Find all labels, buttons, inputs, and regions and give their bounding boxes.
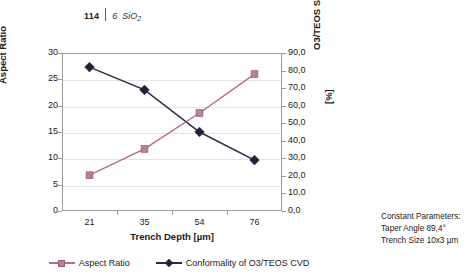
y-tick-mark [58, 79, 62, 80]
square-marker-icon [58, 260, 65, 267]
x-tick-mark [172, 211, 173, 215]
chart-legend: Aspect Ratio Conformality of O3/TEOS CVD [14, 258, 344, 268]
chart-figure: Aspect Ratio O3/TEOS SACVD Conformality … [0, 26, 352, 278]
gridline [63, 80, 281, 81]
legend-label-aspect-ratio: Aspect Ratio [79, 258, 130, 268]
y2-tick-mark [282, 193, 286, 194]
y2-tick-label: 80,0 [288, 66, 322, 75]
y-tick-mark [58, 53, 62, 54]
y2-tick-mark [282, 53, 286, 54]
y2-tick-label: 10,0 [288, 188, 322, 197]
legend-key-conformality [156, 258, 182, 268]
y-tick-label: 25 [32, 74, 58, 83]
header-divider-rule [105, 8, 106, 21]
y2-axis-unit: [%] [324, 89, 335, 104]
x-tick-label: 21 [70, 218, 110, 227]
page-running-head: 114 6 SiO2 [84, 6, 141, 22]
y2-tick-mark [282, 211, 286, 212]
y-tick-label: 20 [32, 101, 58, 110]
y-tick-label: 15 [32, 127, 58, 136]
y2-tick-mark [282, 158, 286, 159]
annotation-line-taper-angle: Taper Angle 89,4° [381, 223, 461, 235]
y2-tick-mark [282, 106, 286, 107]
gridline [63, 107, 281, 108]
y2-tick-label: 50,0 [288, 118, 322, 127]
y2-tick-mark [282, 123, 286, 124]
y-tick-mark [58, 185, 62, 186]
annotation-line-heading: Constant Parameters: [381, 211, 461, 223]
legend-item-aspect-ratio[interactable]: Aspect Ratio [49, 258, 130, 268]
plot-area [62, 53, 282, 211]
y2-tick-label: 90,0 [288, 48, 322, 57]
gridline [63, 186, 281, 187]
chapter-title-subscript: 2 [137, 15, 141, 22]
x-tick-label: 35 [125, 218, 165, 227]
chapter-label: 6 SiO2 [112, 11, 141, 22]
y2-tick-mark [282, 141, 286, 142]
x-tick-label: 76 [235, 218, 275, 227]
y2-axis-title: O3/TEOS SACVD Conformality [312, 0, 323, 50]
chapter-title: SiO [122, 11, 137, 21]
y-tick-mark [58, 106, 62, 107]
annotation-line-trench-size: Trench Size 10x3 µm [381, 235, 461, 247]
diamond-marker-icon [164, 259, 172, 267]
y-tick-mark [58, 132, 62, 133]
y2-tick-label: 30,0 [288, 153, 322, 162]
y-tick-label: 30 [32, 48, 58, 57]
x-tick-label: 54 [180, 218, 220, 227]
gridline [63, 159, 281, 160]
legend-key-aspect-ratio [49, 258, 75, 268]
y2-tick-mark [282, 71, 286, 72]
y2-tick-label: 40,0 [288, 136, 322, 145]
y-tick-label: 0 [32, 206, 58, 215]
y-tick-mark [58, 158, 62, 159]
y-tick-mark [58, 211, 62, 212]
x-tick-mark [227, 211, 228, 215]
x-tick-mark [117, 211, 118, 215]
legend-label-conformality: Conformality of O3/TEOS CVD [186, 258, 310, 268]
y2-tick-label: 20,0 [288, 171, 322, 180]
x-axis-title: Trench Depth [µm] [62, 232, 282, 242]
legend-item-conformality[interactable]: Conformality of O3/TEOS CVD [156, 258, 310, 268]
y2-tick-label: 70,0 [288, 83, 322, 92]
y2-tick-label: 0,0 [288, 206, 322, 215]
chapter-number: 6 [112, 11, 117, 21]
constant-parameters-annotation: Constant Parameters: Taper Angle 89,4° T… [381, 211, 461, 247]
page-folio: 114 [84, 11, 99, 21]
y-axis-title: Aspect Ratio [0, 68, 8, 84]
y2-tick-mark [282, 176, 286, 177]
y2-tick-label: 60,0 [288, 101, 322, 110]
y2-tick-mark [282, 88, 286, 89]
y-tick-label: 10 [32, 153, 58, 162]
gridline [63, 133, 281, 134]
y-tick-label: 5 [32, 180, 58, 189]
